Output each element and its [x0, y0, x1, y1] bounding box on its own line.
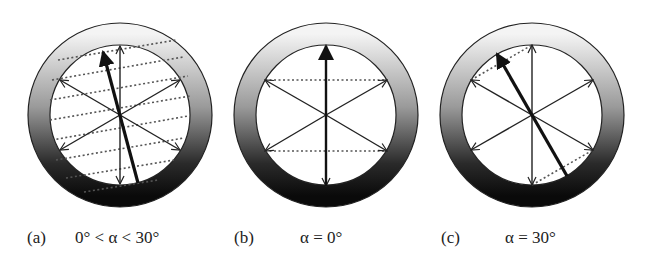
panel-a-condition: 0° < α < 30°: [75, 228, 159, 248]
panel-a: [28, 23, 212, 207]
panel-b-letter: (b): [234, 228, 254, 248]
panel-c-letter: (c): [441, 228, 460, 248]
panel-b-condition: α = 0°: [300, 228, 342, 248]
panel-c-condition: α = 30°: [505, 228, 556, 248]
polarization-diagram: [0, 0, 647, 267]
panel-b: [234, 23, 418, 207]
panel-c: [440, 23, 624, 207]
panel-a-letter: (a): [27, 228, 46, 248]
